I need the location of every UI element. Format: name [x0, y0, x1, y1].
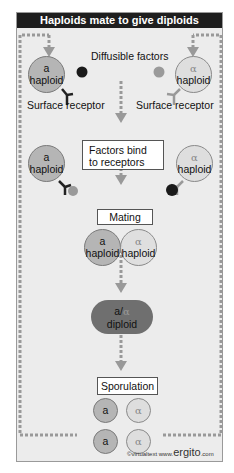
alpha-factor-icon — [154, 67, 165, 78]
sporulation-step: Sporulation — [97, 377, 158, 395]
spore-a-2: a — [93, 429, 118, 454]
left-loop-path — [20, 35, 49, 433]
arrow-down-icon — [115, 113, 127, 123]
bound-a-factor-icon — [166, 184, 178, 196]
alpha-haploid-cell: α haploid — [175, 56, 212, 93]
arrow-down-icon — [115, 283, 127, 293]
diagram-frame: Haploids mate to give diploids — [16, 12, 223, 462]
surface-receptor-left-label: Surface receptor — [27, 99, 105, 111]
spore-a-1: a — [93, 398, 118, 423]
arrow-down-icon — [115, 175, 127, 185]
right-loop-path — [193, 35, 221, 433]
diploid-cell: a/α diploid — [91, 300, 153, 334]
a-haploid-cell-bound: a haploid — [28, 145, 65, 182]
factors-bind-step: Factors bind to receptors — [82, 140, 164, 170]
mating-a-cell: a haploid — [84, 229, 121, 266]
surface-receptor-right-label: Surface receptor — [136, 99, 214, 111]
spore-alpha-1: α — [126, 398, 151, 423]
mating-step: Mating — [97, 209, 153, 225]
arrow-down-icon — [115, 361, 127, 371]
a-haploid-cell: a haploid — [28, 56, 65, 93]
credit-line: ©virtualtext www.ergito.com — [127, 446, 214, 458]
alpha-haploid-cell-bound: α haploid — [176, 145, 213, 182]
a-factor-icon — [77, 67, 88, 78]
mating-alpha-cell: α haploid — [120, 229, 157, 266]
bound-alpha-factor-icon — [68, 186, 78, 196]
diffusible-factors-label: Diffusible factors — [91, 50, 168, 62]
